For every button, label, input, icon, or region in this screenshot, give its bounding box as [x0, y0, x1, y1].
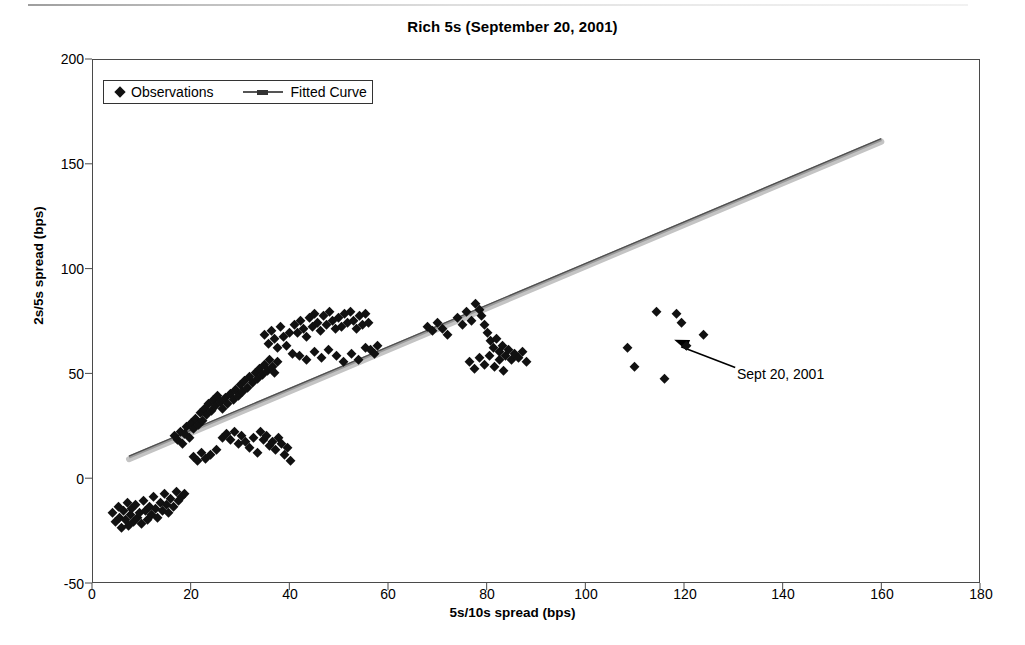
x-tick-label: 60 — [358, 586, 418, 602]
x-tick-label: 140 — [753, 586, 813, 602]
x-tick-label: 80 — [457, 586, 517, 602]
legend-item-observations: Observations — [116, 84, 213, 100]
chart-legend: Observations Fitted Curve — [103, 80, 373, 104]
x-tick-label: 0 — [62, 586, 122, 602]
x-tick-label: 180 — [951, 586, 1011, 602]
line-marker-icon — [243, 91, 283, 93]
legend-item-fitted-curve: Fitted Curve — [243, 84, 366, 100]
x-tick-label: 40 — [260, 586, 320, 602]
scan-artifact-line — [28, 4, 968, 6]
legend-label: Observations — [131, 84, 213, 100]
x-tick-label: 120 — [655, 586, 715, 602]
y-tick-label: 200 — [24, 51, 84, 67]
y-tick-label: 0 — [24, 471, 84, 487]
x-axis-label: 5s/10s spread (bps) — [0, 605, 1025, 620]
x-tick-label: 20 — [161, 586, 221, 602]
y-tick-label: 50 — [24, 366, 84, 382]
chart-figure: Rich 5s (September 20, 2001) 200 150 100… — [0, 0, 1025, 645]
diamond-marker-icon — [114, 86, 125, 97]
legend-label: Fitted Curve — [290, 84, 366, 100]
x-tick-label: 160 — [852, 586, 912, 602]
chart-title: Rich 5s (September 20, 2001) — [0, 18, 1025, 35]
x-tick-label: 100 — [556, 586, 616, 602]
y-axis-label: 2s/5s spread (bps) — [31, 166, 46, 366]
annotation-sept-20-2001: Sept 20, 2001 — [737, 366, 824, 382]
plot-area — [92, 59, 980, 583]
